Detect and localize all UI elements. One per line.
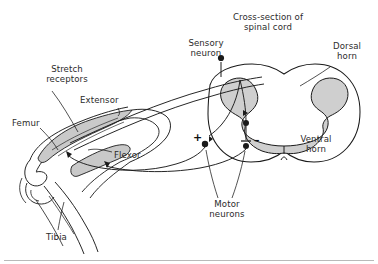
bottom-rule [4, 260, 374, 261]
label-tibia: Tibia [46, 232, 82, 242]
label-femur: Femur [12, 118, 52, 128]
label-stretch-receptors: Stretch receptors [34, 64, 100, 85]
reflex-arc-figure: Cross-section of spinal cord Sensory neu… [0, 0, 378, 264]
label-motor-neurons: Motor neurons [190, 199, 264, 220]
label-cross-section-of-spinal-cord: Cross-section of spinal cord [214, 12, 322, 33]
label-ventral-horn: Ventral horn [288, 134, 344, 155]
label-dorsal-horn: Dorsal horn [320, 41, 374, 62]
excitatory-synapse-sign: + [193, 132, 202, 143]
inhibitory-synapse-sign: – [254, 135, 260, 146]
label-flexor: Flexor [114, 150, 156, 160]
label-sensory-neuron: Sensory neuron [170, 38, 242, 59]
tibia-bone [36, 182, 98, 254]
label-extensor: Extensor [80, 95, 134, 105]
